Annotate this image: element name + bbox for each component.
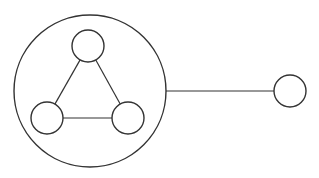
graph-diagram: [0, 0, 319, 178]
edge-top-bottom-right: [96, 60, 120, 104]
node-top: [72, 30, 104, 62]
node-bottom-right: [112, 102, 144, 134]
node-external: [274, 75, 306, 107]
node-bottom-left: [31, 102, 63, 134]
edge-top-bottom-left: [55, 60, 80, 104]
